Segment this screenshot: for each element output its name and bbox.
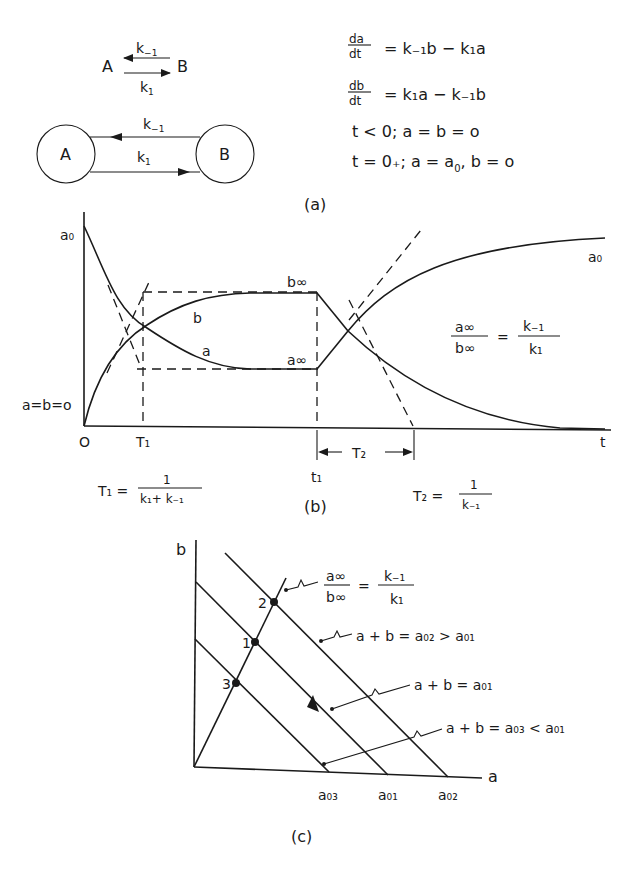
eq1-rhs: = k₋₁b − k₁a xyxy=(384,39,486,58)
equilibrium-ratio: a∞ b∞ = k₋₁ k₁ xyxy=(451,318,560,357)
point-2-label: 2 xyxy=(258,595,267,611)
label-line-a03: a + b = a₀₃ < a₀₁ xyxy=(446,720,565,736)
eq2-denominator: dt xyxy=(349,94,362,108)
svg-text:1: 1 xyxy=(163,473,171,487)
x-origin-label: O xyxy=(79,434,90,450)
point-3 xyxy=(232,679,240,687)
svg-text:=: = xyxy=(358,578,370,594)
point-2 xyxy=(270,598,278,606)
reverse-flux-arrowhead xyxy=(110,133,122,141)
curve-b-drop xyxy=(317,293,348,331)
c-ratio: a∞ b∞ = k₋₁ k₁ xyxy=(324,568,414,607)
leader-a03 xyxy=(324,729,442,764)
T2-span-label: T₂ xyxy=(351,445,366,461)
caption-c: (c) xyxy=(291,827,312,846)
svg-text:k₁: k₁ xyxy=(529,341,543,357)
panel-b: a₀ a=b=o b a b∞ a∞ a₀ a∞ b∞ = k₋₁ k₁ O T… xyxy=(22,212,611,516)
species-b-label: B xyxy=(177,57,188,76)
T2-formula: T₂ = 1 k₋₁ xyxy=(412,478,492,512)
svg-text:1: 1 xyxy=(470,478,478,492)
reaction-scheme-arrows: A B k−1 k1 xyxy=(102,40,188,97)
svg-text:T₂ =: T₂ = xyxy=(412,488,443,504)
a-tangent xyxy=(108,285,140,365)
eq1-denominator: dt xyxy=(349,47,362,61)
point-3-label: 3 xyxy=(222,676,231,692)
svg-text:a∞: a∞ xyxy=(455,319,475,335)
curve-b-label: b xyxy=(193,310,202,326)
curve-a-phase2 xyxy=(348,238,605,331)
circle-rate-k-minus-1: k−1 xyxy=(143,116,164,134)
point-1-label: 1 xyxy=(242,635,251,651)
svg-text:b∞: b∞ xyxy=(326,589,347,605)
b-axis xyxy=(194,540,196,767)
eq1-numerator: da xyxy=(349,32,364,46)
a-axis-label: a xyxy=(488,767,498,786)
svg-text:k₋₁: k₋₁ xyxy=(462,498,480,512)
b-infinity-label: b∞ xyxy=(287,274,308,290)
svg-text:=: = xyxy=(497,329,509,345)
svg-text:a∞: a∞ xyxy=(326,568,346,584)
line-a02 xyxy=(225,553,448,777)
label-line-a02: a + b = a₀₂ > a₀₁ xyxy=(356,628,475,644)
T2-right-arrow xyxy=(403,448,413,456)
tick-a02: a₀₂ xyxy=(438,787,458,803)
label-a0-left: a₀ xyxy=(60,227,75,243)
x-t-label: t xyxy=(600,434,606,450)
rate-k-minus-1: k−1 xyxy=(136,40,157,58)
tick-a01: a₀₁ xyxy=(378,787,398,803)
kinetics-figure: A B k−1 k1 A B k−1 k1 da dt = k₋₁b − k₁a xyxy=(0,0,634,869)
svg-text:k₁+ k₋₁: k₁+ k₋₁ xyxy=(140,492,184,506)
panel-a: A B k−1 k1 A B k−1 k1 da dt = k₋₁b − k₁a xyxy=(37,32,514,214)
svg-text:k₋₁: k₋₁ xyxy=(384,568,405,584)
leader-a01 xyxy=(332,685,410,709)
curve-a-label: a xyxy=(202,343,211,359)
label-line-a01: a + b = a₀₁ xyxy=(414,677,493,693)
eq3-initial-condition: t < 0; a = b = o xyxy=(352,122,479,141)
svg-text:k₋₁: k₋₁ xyxy=(523,318,544,334)
svg-text:k₁: k₁ xyxy=(390,591,404,607)
T2-left-arrow xyxy=(318,448,328,456)
equilibrium-line xyxy=(194,578,286,767)
label-initial-zero: a=b=o xyxy=(22,397,72,413)
rise-tangent xyxy=(349,230,421,320)
rate-equations: da dt = k₋₁b − k₁a db dt = k₁a − k₋₁b t … xyxy=(348,32,514,174)
eq2-rhs: = k₁a − k₋₁b xyxy=(384,85,486,104)
species-a-label: A xyxy=(102,57,113,76)
curve-b-phase2 xyxy=(348,331,605,429)
x-t1-label: t₁ xyxy=(311,469,322,485)
circle-a-label: A xyxy=(60,145,71,164)
eq2-numerator: db xyxy=(349,79,364,93)
forward-flux-arrowhead xyxy=(178,168,190,176)
circle-rate-k-1: k1 xyxy=(137,149,151,167)
x-T1-label: T₁ xyxy=(135,434,150,450)
b-axis-label: b xyxy=(176,540,186,559)
a-infinity-label: a∞ xyxy=(287,352,307,368)
x-axis-time xyxy=(84,426,611,430)
panel-c: b a 2 1 3 a∞ b∞ = k₋₁ k₁ xyxy=(176,540,565,846)
caption-a: (a) xyxy=(304,195,326,214)
curve-a-rise xyxy=(317,331,348,369)
point-1 xyxy=(251,638,259,646)
rate-k-1: k1 xyxy=(140,79,154,97)
leader-a02 xyxy=(321,631,352,641)
caption-b: (b) xyxy=(304,497,327,516)
curve-a-phase1 xyxy=(84,226,317,369)
T1-formula: T₁ = 1 k₁+ k₋₁ xyxy=(97,473,202,506)
svg-text:T₁ =: T₁ = xyxy=(97,483,128,499)
eq4-initial-condition: t = 0₊; a = a0, b = o xyxy=(352,152,514,174)
reaction-scheme-circles: A B k−1 k1 xyxy=(37,116,254,183)
leader-ratio xyxy=(286,580,318,590)
svg-text:b∞: b∞ xyxy=(455,340,476,356)
tick-a03: a₀₃ xyxy=(318,787,338,803)
circle-b-label: B xyxy=(219,145,230,164)
a0-right-label: a₀ xyxy=(588,249,603,265)
